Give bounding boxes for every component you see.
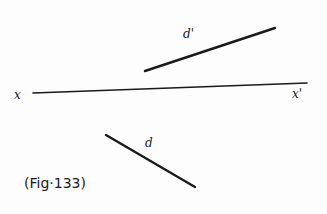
line-front-label: d': [183, 27, 194, 41]
ground-line-label-x-prime: x': [292, 87, 302, 101]
line-front-projection: [145, 28, 275, 71]
ground-line: [33, 83, 307, 93]
line-top-label: d: [145, 136, 153, 150]
projection-diagram: x x' d' d (Fig·133): [0, 0, 327, 214]
ground-line-label-x: x: [14, 88, 21, 102]
diagram-canvas: x x' d' d (Fig·133): [0, 0, 327, 214]
figure-caption: (Fig·133): [24, 175, 86, 191]
